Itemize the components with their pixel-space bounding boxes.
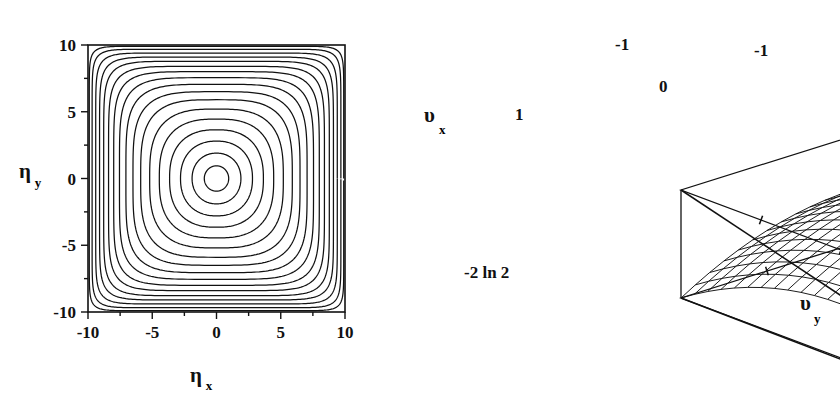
x-axis-max-label: 1 — [515, 105, 524, 124]
contour-line — [104, 61, 330, 295]
vy-axis-sub: y — [814, 311, 821, 326]
vx-axis-label: υ — [424, 103, 435, 127]
surface-plot-svg: 1-10-1-2 ln 2υxυy — [410, 0, 840, 402]
vy-axis-label: υ — [800, 291, 811, 315]
x-axis-tick-label: 0 — [212, 323, 221, 342]
x-axis-tick-label: -10 — [77, 323, 100, 342]
surface-plot-panel: 1-10-1-2 ln 2υxυy — [410, 0, 840, 402]
contour-line — [114, 72, 320, 286]
contour-line — [181, 141, 253, 216]
mesh-row-line — [694, 173, 840, 295]
contour-line — [126, 84, 307, 272]
mesh-row-line — [734, 167, 840, 289]
axis-tick-group — [81, 45, 345, 319]
plot-frame — [88, 45, 345, 312]
contour-line — [92, 49, 341, 307]
contour-line — [133, 92, 300, 266]
mesh-column-line — [738, 239, 840, 370]
y-axis-tick-label: 10 — [59, 36, 76, 55]
x-axis-tick-label: -5 — [145, 323, 159, 342]
y-axis-max-label: -1 — [754, 41, 768, 60]
mesh-column-line — [753, 229, 840, 360]
contour-line — [192, 153, 241, 204]
contour-plot-svg: -10-50510-10-50510 η x η y — [0, 0, 410, 402]
surface-annotation-group: 1-10-1-2 ln 2υxυy — [424, 35, 821, 326]
contour-line — [89, 46, 343, 310]
z-min-label: -2 ln 2 — [464, 263, 509, 282]
mesh-row-line — [774, 167, 840, 289]
y-axis-label-subscript: y — [35, 175, 42, 190]
x-axis-tick-label: 5 — [277, 323, 286, 342]
mesh-column-line — [681, 287, 840, 402]
y-axis-tick-label: 5 — [68, 103, 77, 122]
x-axis-label-subscript: x — [206, 378, 213, 393]
surface-mesh-rows — [681, 166, 840, 402]
z-zero-label: 0 — [659, 77, 668, 96]
back-corner-label: -1 — [615, 35, 629, 54]
contour-curve-group — [89, 46, 343, 310]
x-axis-label: η — [190, 363, 202, 387]
y-axis-tick-label: -5 — [62, 236, 76, 255]
y-axis-tick-label: -10 — [53, 303, 76, 322]
mesh-row-line — [748, 166, 840, 288]
y-axis-tick-label: 0 — [68, 170, 77, 189]
mesh-column-line — [695, 274, 840, 402]
vx-axis-sub: x — [439, 122, 446, 137]
contour-line — [119, 78, 313, 280]
figure-root: -10-50510-10-50510 η x η y 1-10-1-2 ln 2… — [0, 0, 840, 402]
x-axis-tick-label: 10 — [337, 323, 354, 342]
contour-line — [170, 130, 264, 227]
contour-line — [204, 166, 228, 191]
surface-mesh-columns — [681, 166, 840, 402]
contour-line — [159, 119, 273, 238]
contour-line — [100, 57, 334, 300]
contour-plot-panel: -10-50510-10-50510 η x η y — [0, 0, 410, 402]
mesh-row-line — [801, 171, 840, 293]
y-axis-label: η — [19, 159, 31, 183]
mesh-column-line — [724, 250, 840, 381]
